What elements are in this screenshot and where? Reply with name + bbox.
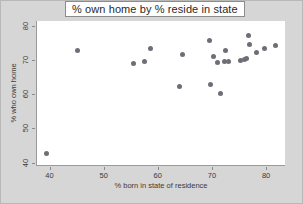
y-axis-label: % who own home: [9, 63, 18, 122]
chart-title: % own home by % reside in state: [72, 3, 238, 15]
scatter-point: [226, 59, 231, 64]
x-axis-tick-mark: [266, 167, 267, 170]
x-axis-tick-label: 80: [262, 171, 270, 180]
scatter-point: [218, 91, 223, 96]
scatter-point: [211, 54, 216, 59]
scatter-point: [208, 82, 213, 87]
chart-screenshot: 40506070804050607080 % who own home % bo…: [0, 0, 303, 204]
x-axis-tick-label: 70: [208, 171, 216, 180]
y-axis-tick-label: 70: [21, 56, 30, 64]
y-axis-tick-mark: [32, 60, 35, 61]
y-axis-tick-mark: [32, 94, 35, 95]
x-axis-label: % born in state of residence: [115, 181, 208, 190]
y-axis-tick-label: 40: [21, 158, 30, 166]
scatter-point: [207, 38, 212, 43]
scatter-point: [254, 50, 259, 55]
chart-title-box: % own home by % reside in state: [65, 1, 245, 17]
y-axis-tick-mark: [32, 163, 35, 164]
x-axis-tick-label: 40: [45, 171, 53, 180]
x-axis-tick-mark: [158, 167, 159, 170]
x-axis-tick-label: 50: [99, 171, 107, 180]
x-axis-tick-mark: [212, 167, 213, 170]
x-axis-tick-label: 60: [154, 171, 162, 180]
y-axis-tick-mark: [32, 128, 35, 129]
y-axis-tick-label: 80: [21, 22, 30, 30]
y-axis-tick-mark: [32, 26, 35, 27]
y-axis-tick-label: 50: [21, 124, 30, 132]
x-axis-tick-mark: [104, 167, 105, 170]
y-axis-tick-label: 60: [21, 90, 30, 98]
scatter-point: [44, 151, 49, 156]
scatter-point: [131, 61, 136, 66]
x-axis-tick-mark: [50, 167, 51, 170]
